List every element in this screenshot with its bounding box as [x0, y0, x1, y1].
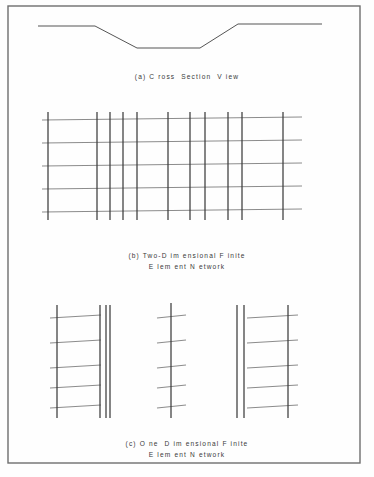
caption-one-dimensional-network-line-1: (c) O ne D im ensional F inite [126, 440, 249, 448]
caption-two-dimensional-network-line-1: (b) Two-D im ensional F inite [128, 252, 245, 260]
figure-page: (a) C ross Section V iew(b) Two-D im ens… [0, 0, 374, 477]
caption-two-dimensional-network-line-2: E lem ent N etwork [149, 263, 225, 270]
figure-background [0, 0, 374, 477]
caption-cross-section-line-1: (a) C ross Section V iew [135, 73, 239, 81]
caption-one-dimensional-network-line-2: E lem ent N etwork [149, 451, 225, 458]
figure-canvas: (a) C ross Section V iew(b) Two-D im ens… [0, 0, 374, 477]
